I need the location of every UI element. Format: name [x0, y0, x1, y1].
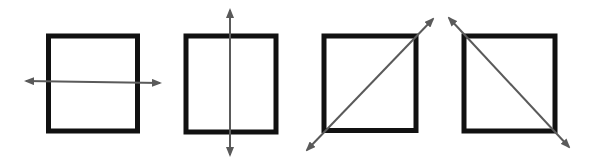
figure-diagonal-descending	[449, 18, 569, 147]
symmetry-diagram	[0, 0, 593, 160]
figure-horizontal	[26, 36, 160, 131]
square-outline	[49, 36, 138, 131]
diagram-svg	[0, 0, 593, 160]
figure-vertical	[186, 10, 276, 155]
figure-diagonal-ascending	[307, 19, 433, 150]
